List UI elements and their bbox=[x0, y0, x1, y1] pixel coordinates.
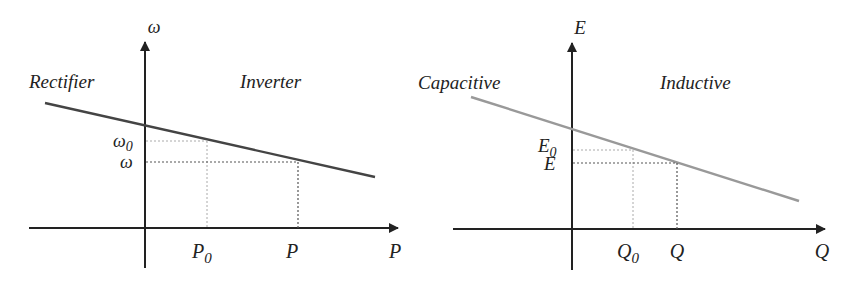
left-diagram: ω P Rectifier Inverter ω0 ω P0 P bbox=[28, 17, 401, 268]
tick-label-omega0: ω0 bbox=[113, 131, 133, 154]
left-droop-line bbox=[45, 103, 375, 177]
region-label-inductive: Inductive bbox=[659, 72, 731, 93]
droop-diagrams: ω P Rectifier Inverter ω0 ω P0 P E Q Cap… bbox=[0, 0, 858, 284]
right-droop-line bbox=[471, 97, 799, 201]
tick-label-p0: P0 bbox=[191, 240, 212, 266]
right-y-axis-label: E bbox=[573, 17, 586, 38]
region-label-inverter: Inverter bbox=[239, 71, 302, 92]
region-label-capacitive: Capacitive bbox=[418, 72, 500, 93]
right-diagram: E Q Capacitive Inductive E0 E Q0 Q bbox=[418, 17, 830, 270]
region-label-rectifier: Rectifier bbox=[28, 71, 95, 92]
tick-label-e: E bbox=[543, 153, 556, 174]
tick-label-q: Q bbox=[670, 240, 685, 262]
tick-label-p: P bbox=[285, 240, 298, 262]
right-x-axis-label: Q bbox=[815, 240, 830, 262]
left-y-axis-label: ω bbox=[148, 17, 161, 37]
left-x-axis-label: P bbox=[388, 240, 401, 262]
tick-label-q0: Q0 bbox=[617, 240, 639, 266]
tick-label-omega: ω bbox=[120, 152, 133, 172]
